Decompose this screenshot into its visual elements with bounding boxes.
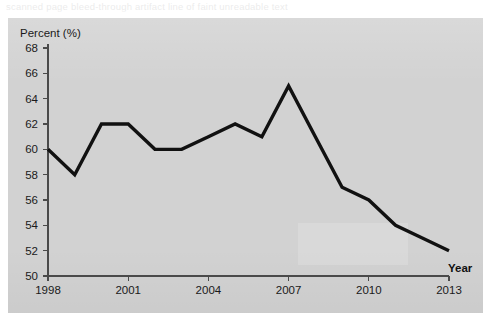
x-axis-tick-label: 2004 [196,284,222,296]
y-axis-tick-label: 64 [12,93,38,105]
y-axis-tick-label: 56 [12,194,38,206]
y-axis-tick-label: 58 [12,169,38,181]
x-axis-tick-label: 2007 [276,284,302,296]
y-axis-tick-label: 60 [12,143,38,155]
chart-panel: Percent (%) Year 50525456586062646668199… [8,18,483,313]
y-axis-tick-label: 66 [12,67,38,79]
y-axis-tick-label: 54 [12,219,38,231]
data-series-line [48,86,449,251]
x-axis-tick-label: 2013 [436,284,462,296]
y-axis-tick-label: 52 [12,245,38,257]
y-axis-tick-label: 50 [12,270,38,282]
x-axis-tick-label: 2010 [356,284,382,296]
y-axis-tick-label: 68 [12,42,38,54]
y-axis-tick-label: 62 [12,118,38,130]
x-axis-tick-label: 1998 [35,284,61,296]
scan-bleed-text: scanned page bleed-through artifact line… [6,1,476,11]
plot-area: 5052545658606264666819982001200420072010… [8,18,483,313]
x-axis-tick-label: 2001 [115,284,141,296]
line-chart-svg [8,18,483,313]
